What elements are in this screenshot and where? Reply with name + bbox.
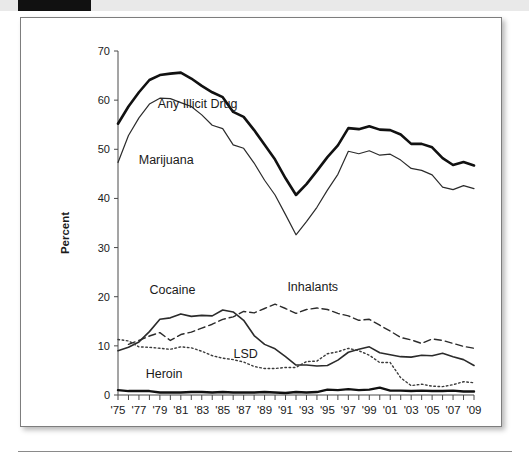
x-tick-label: '09 xyxy=(467,404,482,416)
series-line-cocaine xyxy=(118,310,474,366)
series-label-heroin: Heroin xyxy=(146,367,183,381)
series-label-lsd: LSD xyxy=(234,347,258,361)
y-tick-label: 10 xyxy=(98,340,110,352)
x-tick-label: '01 xyxy=(383,404,398,416)
y-tick-label: 30 xyxy=(98,242,110,254)
x-tick-label: '87 xyxy=(236,404,251,416)
x-tick-label: '85 xyxy=(215,404,230,416)
y-tick-label: 60 xyxy=(98,94,110,106)
series-label-marijuana: Marijuana xyxy=(139,153,194,167)
header-tab-block xyxy=(18,0,91,11)
series-label-inhalants: Inhalants xyxy=(287,280,338,294)
y-tick-label: 20 xyxy=(98,291,110,303)
x-tick-label: '91 xyxy=(278,404,293,416)
x-tick-label: '77 xyxy=(131,404,146,416)
x-tick-label: '05 xyxy=(425,404,440,416)
x-tick-label: '81 xyxy=(173,404,188,416)
x-tick-label: '93 xyxy=(299,404,314,416)
figure-panel: 010203040506070 '75'77'79'81'83'85'87'89… xyxy=(20,17,502,427)
x-tick-label: '07 xyxy=(446,404,461,416)
x-tick-label: '83 xyxy=(194,404,209,416)
series-line-any-illicit-drug xyxy=(118,73,474,195)
x-tick-label: '75 xyxy=(111,404,126,416)
y-tick-label: 40 xyxy=(98,192,110,204)
series-lines xyxy=(118,73,474,393)
top-band xyxy=(0,0,529,11)
series-label-any-illicit-drug: Any Illicit Drug xyxy=(158,97,238,111)
x-tick-label: '03 xyxy=(404,404,419,416)
x-tick-label: '99 xyxy=(362,404,377,416)
series-line-heroin xyxy=(118,388,474,393)
y-tick-label: 50 xyxy=(98,143,110,155)
y-axis-title: Percent xyxy=(59,212,71,254)
bottom-divider xyxy=(18,451,512,452)
line-chart: 010203040506070 '75'77'79'81'83'85'87'89… xyxy=(21,18,501,426)
x-tick-label: '89 xyxy=(257,404,272,416)
x-axis: '75'77'79'81'83'85'87'89'91'93'95'97'99'… xyxy=(111,395,482,416)
series-line-inhalants xyxy=(128,304,474,348)
x-tick-label: '79 xyxy=(152,404,167,416)
x-tick-label: '97 xyxy=(341,404,356,416)
y-tick-label: 70 xyxy=(98,45,110,57)
series-label-cocaine: Cocaine xyxy=(150,283,196,297)
y-axis: 010203040506070 xyxy=(98,45,118,401)
x-tick-label: '95 xyxy=(320,404,335,416)
y-tick-label: 0 xyxy=(104,389,110,401)
